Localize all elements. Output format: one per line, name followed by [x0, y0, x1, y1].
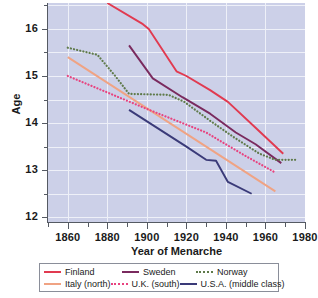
y-axis-minor-tick — [44, 147, 48, 148]
legend-swatch-u-k-south — [111, 280, 128, 288]
y-axis-tick-label: 16 — [0, 22, 38, 34]
legend-row: FinlandSwedenNorway — [44, 266, 274, 278]
legend-swatch-u-s-a-middle-class — [180, 280, 197, 288]
x-axis-tick-label: 1880 — [95, 231, 120, 243]
chart-legend: FinlandSwedenNorwayItaly (north)U.K. (so… — [39, 263, 279, 292]
x-axis-tick — [226, 223, 227, 229]
legend-label-finland: Finland — [65, 267, 95, 277]
series-line-u-s-a-middle-class — [129, 110, 252, 194]
plot-area — [48, 3, 305, 222]
x-axis-line — [47, 222, 306, 223]
y-axis-tick-label: 12 — [0, 210, 38, 222]
legend-swatch-finland — [44, 268, 61, 276]
y-axis-line — [47, 3, 48, 222]
legend-item-norway: Norway — [196, 267, 248, 277]
x-axis-minor-tick — [246, 223, 247, 227]
y-axis-tick-label: 13 — [0, 163, 38, 175]
y-axis-tick — [42, 170, 48, 171]
y-axis-minor-tick — [44, 100, 48, 101]
menarche-age-chart-figure: 12131415161860188019001920194019601980 A… — [0, 0, 318, 298]
y-axis-title: Age — [10, 84, 22, 124]
x-axis-tick — [186, 223, 187, 229]
y-axis-minor-tick — [44, 52, 48, 53]
y-axis-minor-tick — [44, 5, 48, 6]
x-axis-tick-label: 1940 — [213, 231, 238, 243]
y-axis-tick — [42, 76, 48, 77]
legend-swatch-italy-north — [44, 280, 61, 288]
y-axis-tick — [42, 29, 48, 30]
legend-swatch-norway — [196, 268, 213, 276]
series-layer — [48, 3, 305, 222]
y-axis-minor-tick — [44, 194, 48, 195]
x-axis-tick-label: 1860 — [55, 231, 80, 243]
x-axis-minor-tick — [48, 223, 49, 227]
legend-item-sweden: Sweden — [122, 267, 196, 277]
y-axis-tick-label: 15 — [0, 69, 38, 81]
x-axis-tick-label: 1900 — [134, 231, 159, 243]
legend-label-u-k-south: U.K. (south) — [132, 279, 180, 289]
x-axis-minor-tick — [127, 223, 128, 227]
x-axis-tick — [68, 223, 69, 229]
legend-label-u-s-a-middle-class: U.S.A. (middle class) — [201, 279, 285, 289]
x-axis-tick — [305, 223, 306, 229]
x-axis-tick — [147, 223, 148, 229]
legend-item-finland: Finland — [44, 267, 122, 277]
x-axis-tick-label: 1960 — [253, 231, 278, 243]
legend-row: Italy (north)U.K. (south)U.S.A. (middle … — [44, 278, 274, 290]
x-axis-tick — [265, 223, 266, 229]
x-axis-tick — [107, 223, 108, 229]
x-axis-title: Year of Menarche — [48, 245, 305, 257]
x-axis-minor-tick — [285, 223, 286, 227]
x-axis-minor-tick — [88, 223, 89, 227]
series-line-finland — [107, 3, 283, 154]
series-line-italy-north — [68, 57, 276, 191]
legend-label-norway: Norway — [217, 267, 248, 277]
legend-item-italy-north: Italy (north) — [44, 279, 111, 289]
legend-label-sweden: Sweden — [143, 267, 176, 277]
x-axis-tick-label: 1920 — [174, 231, 199, 243]
x-axis-minor-tick — [206, 223, 207, 227]
legend-swatch-sweden — [122, 268, 139, 276]
legend-item-u-k-south: U.K. (south) — [111, 279, 180, 289]
x-axis-minor-tick — [167, 223, 168, 227]
x-axis-tick-label: 1980 — [292, 231, 317, 243]
y-axis-tick — [42, 123, 48, 124]
legend-item-u-s-a-middle-class: U.S.A. (middle class) — [180, 279, 285, 289]
y-axis-tick — [42, 217, 48, 218]
legend-label-italy-north: Italy (north) — [65, 279, 111, 289]
